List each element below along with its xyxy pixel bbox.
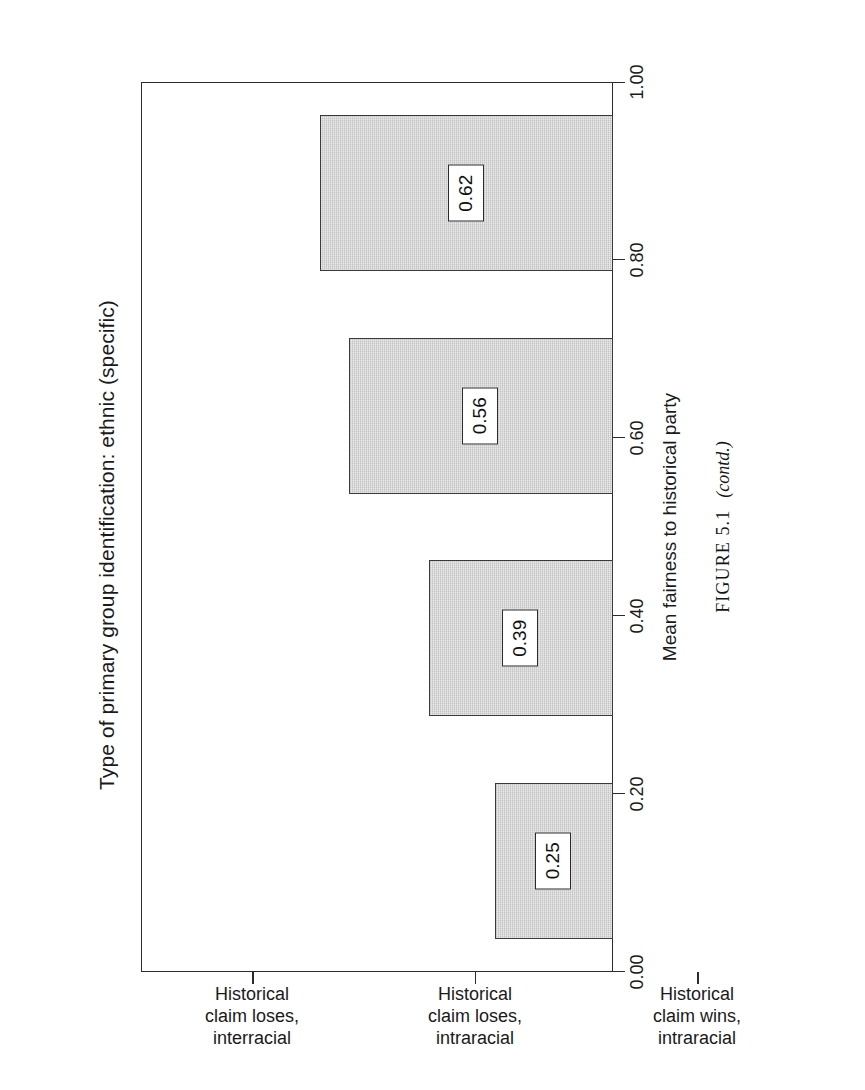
category-axis-tick: [252, 972, 253, 984]
value-axis-tick-label: 0.80: [627, 242, 648, 277]
value-axis-tick-label: 0.60: [627, 420, 648, 455]
category-axis-label: Historicalclaim wins,intraracial: [657, 984, 737, 1050]
category-axis-label-text: Historicalclaim loses,interracial: [205, 984, 299, 1050]
bar-series-2[interactable]: 0.56: [348, 338, 612, 494]
bars-layer: 0.25 0.39 0.56 0.62: [141, 82, 613, 972]
value-axis-tick: [613, 437, 625, 438]
bar-series-0[interactable]: 0.25: [495, 783, 613, 939]
bar-value-label-3: 0.62: [447, 165, 483, 222]
value-axis-tick: [613, 971, 625, 972]
value-axis-tick: [613, 82, 625, 83]
value-axis-tick: [613, 615, 625, 616]
category-axis-ticks: [141, 972, 613, 984]
value-axis-tick-label: 0.20: [627, 776, 648, 811]
category-axis-label: Historicalclaim loses,interracial: [212, 984, 292, 1050]
bar-value-label-0: 0.25: [535, 832, 571, 889]
value-axis-tick: [613, 259, 625, 260]
figure-caption-note: (contd.): [713, 441, 733, 497]
category-axis-tick: [474, 972, 475, 984]
value-axis-tick-label: 0.00: [627, 954, 648, 989]
category-axis-label: Historicalclaim loses,intraracial: [434, 984, 514, 1050]
value-axis-ticks: [613, 82, 625, 972]
bar-value-label-1: 0.39: [501, 610, 537, 667]
value-axis-tick-labels: 0.000.200.400.600.801.00: [627, 82, 653, 972]
bar-series-3[interactable]: 0.62: [320, 115, 613, 271]
value-axis-title: Mean fairness to historical party: [659, 82, 681, 972]
category-axis-tick: [697, 972, 698, 984]
category-axis-labels: Historicalclaim loses,interracialHistori…: [141, 984, 613, 1050]
chart-title: Type of primary group identification: et…: [95, 40, 119, 1050]
figure-caption: FIGURE 5.1(contd.): [713, 82, 734, 972]
category-axis-label-text: Historicalclaim loses,intraracial: [427, 984, 521, 1050]
figure-caption-label: FIGURE 5.1: [713, 510, 733, 613]
category-axis-label-text: Historicalclaim wins,intraracial: [653, 984, 741, 1050]
value-axis-tick: [613, 793, 625, 794]
figure-canvas: Type of primary group identification: et…: [83, 40, 783, 1050]
value-axis-tick-label: 1.00: [627, 64, 648, 99]
bar-value-label-2: 0.56: [461, 387, 497, 444]
value-axis-tick-label: 0.40: [627, 598, 648, 633]
bar-series-1[interactable]: 0.39: [428, 560, 612, 716]
